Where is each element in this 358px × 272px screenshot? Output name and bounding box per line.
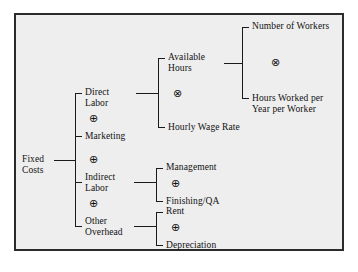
connector-level1-tick-marketing — [75, 136, 82, 137]
connector-level1-tick-direct — [75, 93, 82, 94]
connector-available-hours-tick-hours — [242, 98, 249, 99]
operator-plus-icon-5: ⊕ — [171, 222, 180, 233]
operator-plus-icon-2: ⊕ — [89, 154, 98, 165]
node-hours-worked-line2: Year per Worker — [252, 104, 316, 115]
node-indirect-labor-line2: Labor — [85, 183, 108, 194]
node-direct-labor-line1: Direct — [85, 87, 109, 98]
connector-direct-labor-stem — [136, 93, 158, 94]
node-hourly-wage-rate-label: Hourly Wage Rate — [168, 122, 240, 133]
connector-level1-tick-other — [75, 226, 82, 227]
node-fixed-costs-line2: Costs — [22, 165, 44, 176]
operator-plus-icon-3: ⊕ — [89, 198, 98, 209]
connector-indirect-labor-stem — [134, 182, 156, 183]
connector-direct-labor-spine — [158, 58, 159, 127]
node-rent-label: Rent — [166, 206, 184, 217]
connector-other-overhead-spine — [156, 212, 157, 245]
node-available-hours-line1: Available — [168, 52, 205, 63]
node-depreciation-label: Depreciation — [166, 240, 216, 251]
operator-plus-icon-1: ⊕ — [89, 113, 98, 124]
connector-available-hours-tick-workers — [242, 27, 249, 28]
connector-other-overhead-stem — [134, 226, 156, 227]
connector-direct-labor-tick-wage — [158, 127, 165, 128]
node-finishing-qa-label: Finishing/QA — [166, 196, 219, 207]
connector-other-overhead-tick-depreciation — [156, 245, 163, 246]
operator-times-icon-1: ⊗ — [173, 88, 182, 99]
node-available-hours-line2: Hours — [168, 63, 192, 74]
connector-level1-spine — [75, 93, 76, 227]
node-fixed-costs-line1: Fixed — [22, 154, 44, 165]
connector-indirect-labor-tick-finishing — [156, 201, 163, 202]
connector-available-hours-spine — [242, 27, 243, 98]
connector-indirect-labor-tick-management — [156, 168, 163, 169]
diagram-canvas: Fixed Costs Direct Labor ⊕ Marketing ⊕ I… — [16, 15, 342, 249]
node-direct-labor-line2: Labor — [85, 98, 108, 109]
connector-indirect-labor-spine — [156, 168, 157, 201]
connector-root-stem — [54, 160, 75, 161]
node-hours-worked-line1: Hours Worked per — [252, 93, 323, 104]
connector-other-overhead-tick-rent — [156, 212, 163, 213]
node-management-label: Management — [166, 162, 217, 173]
node-other-overhead-line1: Other — [85, 216, 107, 227]
node-indirect-labor-line1: Indirect — [85, 172, 115, 183]
operator-times-icon-2: ⊗ — [271, 57, 280, 68]
diagram-frame: Fixed Costs Direct Labor ⊕ Marketing ⊕ I… — [14, 13, 344, 251]
connector-direct-labor-tick-available — [158, 58, 165, 59]
node-number-of-workers-label: Number of Workers — [252, 21, 329, 32]
connector-level1-tick-indirect — [75, 182, 82, 183]
connector-available-hours-stem — [224, 63, 242, 64]
node-other-overhead-line2: Overhead — [85, 227, 123, 238]
node-marketing-label: Marketing — [85, 131, 125, 142]
operator-plus-icon-4: ⊕ — [171, 178, 180, 189]
